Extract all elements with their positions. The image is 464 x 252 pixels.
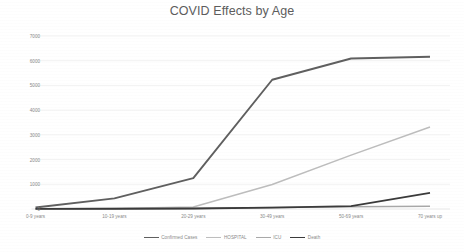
line-chart-svg	[0, 0, 464, 252]
legend-item[interactable]: HOSPITAL	[206, 235, 246, 240]
y-axis-tick-label: 7000	[16, 34, 40, 39]
y-axis-tick-label: 3000	[16, 132, 40, 137]
legend-item-label: HOSPITAL	[224, 235, 247, 240]
x-axis-tick-label: 50-69 years	[339, 214, 363, 219]
legend-color-swatch	[290, 237, 305, 239]
y-axis-tick-label: 2000	[16, 157, 40, 162]
y-axis-tick-label: 6000	[16, 58, 40, 63]
legend-color-swatch	[206, 237, 221, 239]
y-axis-tick-label: 0	[16, 207, 40, 212]
legend-item[interactable]: ICU	[256, 235, 282, 240]
x-axis-tick-label: 20-29 years	[181, 214, 205, 219]
x-axis-tick-label: 10-19 years	[102, 214, 126, 219]
legend-item-label: ICU	[273, 235, 281, 240]
x-axis-tick-label: 0-9 years	[26, 214, 45, 219]
x-axis-tick-label: 70 years up	[418, 214, 442, 219]
plot-area: 01000200030004000500060007000 0-9 years1…	[0, 0, 464, 252]
series-line	[36, 57, 431, 208]
legend-color-swatch	[256, 237, 271, 239]
chart-card: COVID Effects by Age 0100020003000400050…	[0, 0, 464, 252]
legend-item-label: Confirmed Cases	[161, 235, 197, 240]
x-axis-tick-label: 30-49 years	[260, 214, 284, 219]
legend-item[interactable]: Death	[290, 235, 320, 240]
y-axis-tick-label: 4000	[16, 108, 40, 113]
y-axis-tick-label: 1000	[16, 182, 40, 187]
legend-color-swatch	[144, 237, 159, 239]
series-line	[36, 127, 431, 209]
legend-item-label: Death	[308, 235, 321, 240]
legend-item[interactable]: Confirmed Cases	[144, 235, 198, 240]
y-axis-tick-label: 5000	[16, 83, 40, 88]
chart-legend: Confirmed CasesHOSPITALICUDeath	[0, 235, 464, 240]
